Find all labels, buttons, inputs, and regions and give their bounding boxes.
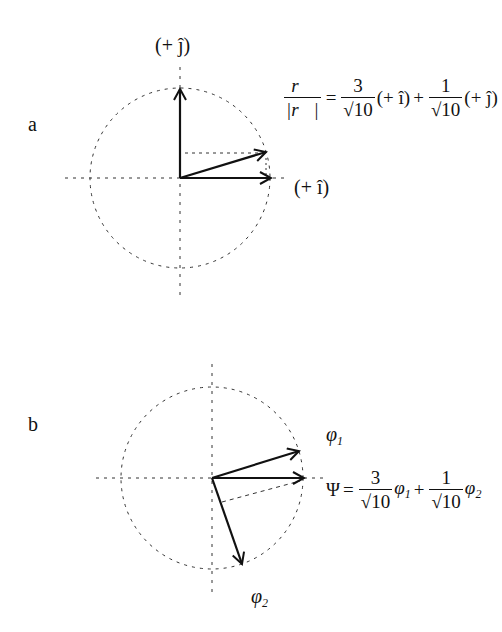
panel-b-label: b <box>28 413 38 436</box>
psi-symbol: Ψ <box>326 479 340 501</box>
coef1-fraction-a: 3 √10 <box>341 76 374 119</box>
lhs-fraction-a: r⃗ |r⃗| <box>284 76 321 119</box>
coef1-fraction-b: 3 √10 <box>359 468 392 511</box>
phi1-label: φ1 <box>326 423 343 449</box>
panel-b-graphic <box>96 364 325 598</box>
phi2-term: φ2 <box>465 477 482 502</box>
panel-a-graphic <box>65 67 288 295</box>
coef2-fraction-a: 1 √10 <box>429 76 462 119</box>
equation-a: r⃗ |r⃗| = 3 √10 (+ î) + 1 √10 (+ ĵ) <box>282 76 498 119</box>
coef2-fraction-b: 1 √10 <box>429 468 462 511</box>
phi2-label: φ2 <box>251 585 268 611</box>
phi1-term: φ1 <box>394 477 411 502</box>
i-axis-label: (+ î) <box>294 176 329 199</box>
r-vector-arrow <box>180 152 266 178</box>
panel-a-label: a <box>28 113 37 136</box>
phi2-arrow <box>212 478 242 564</box>
equation-b: Ψ = 3 √10 φ1 + 1 √10 φ2 <box>326 468 481 511</box>
projection-dash-b <box>222 481 300 502</box>
basis-j-term: (+ ĵ) <box>464 87 497 109</box>
phi1-arrow <box>212 451 299 478</box>
basis-i-term: (+ î) <box>377 87 410 109</box>
j-axis-label: (+ ĵ) <box>155 34 190 57</box>
